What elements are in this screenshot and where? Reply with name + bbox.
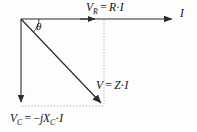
resistor-voltage-label: VR = R·I xyxy=(86,2,124,16)
phasor-diagram: VR = R·I I θ V = Z·I VC = −jXC·I xyxy=(0,0,197,132)
total-voltage-symbol: V xyxy=(96,79,103,91)
total-voltage-label: V = Z·I xyxy=(96,80,128,92)
capacitor-voltage-subscript: C xyxy=(17,118,22,127)
current-symbol: I xyxy=(180,7,184,19)
total-voltage-vector xyxy=(21,19,101,103)
capacitor-voltage-label: VC = −jXC·I xyxy=(10,113,63,127)
capacitor-voltage-symbol: V xyxy=(10,112,17,124)
resistor-voltage-symbol: V xyxy=(86,1,93,13)
resistor-voltage-expression: R xyxy=(109,1,116,13)
capacitor-voltage-equals: = xyxy=(25,112,32,124)
angle-label: θ xyxy=(36,21,41,32)
capacitor-voltage-current: I xyxy=(59,112,63,124)
total-voltage-equals: = xyxy=(105,79,112,91)
resistor-voltage-current: I xyxy=(120,1,124,13)
resistor-voltage-equals: = xyxy=(100,1,107,13)
resistor-voltage-subscript: R xyxy=(93,7,98,16)
current-label: I xyxy=(180,8,184,20)
theta-symbol: θ xyxy=(36,20,41,32)
total-voltage-current: I xyxy=(124,79,128,91)
